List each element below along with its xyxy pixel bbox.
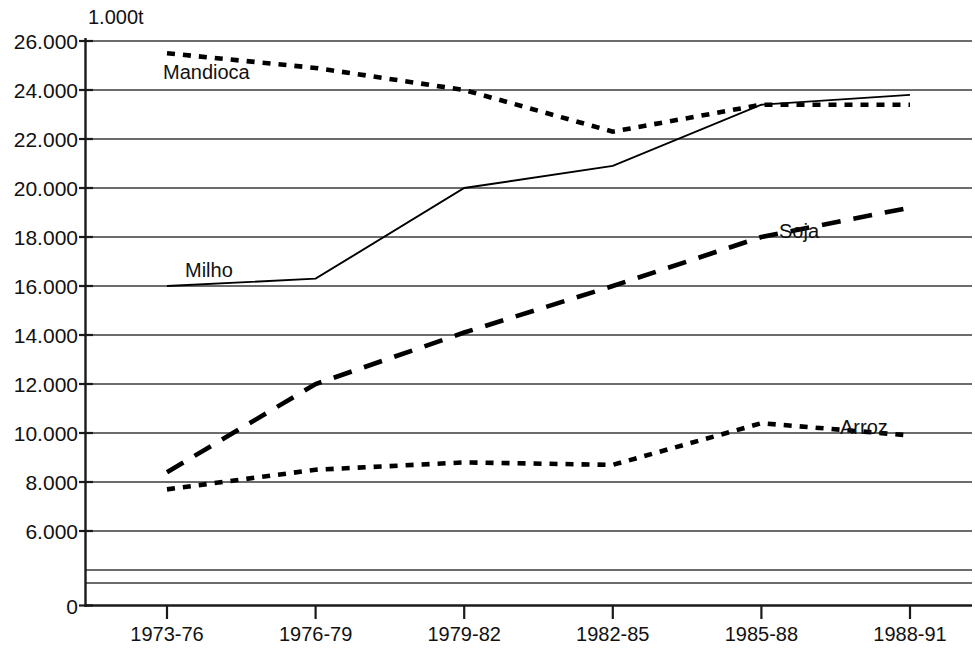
chart-container: 06.0008.00010.00012.00014.00016.00018.00…	[0, 0, 975, 648]
series-line-milho	[167, 95, 910, 286]
y-tick-label: 14.000	[14, 324, 78, 347]
y-tick-label: 18.000	[14, 226, 78, 249]
y-tick-label: 12.000	[14, 373, 78, 396]
x-axis-tick-labels: 1973-761976-791979-821982-851985-881988-…	[130, 623, 946, 645]
x-tick-label: 1979-82	[427, 623, 500, 645]
series-label-milho: Milho	[185, 259, 233, 281]
y-axis	[79, 38, 93, 607]
x-tick-label: 1988-91	[873, 623, 946, 645]
x-tick-label: 1976-79	[279, 623, 352, 645]
y-tick-label: 0	[66, 595, 78, 618]
y-tick-label: 26.000	[14, 30, 78, 53]
y-tick-label: 24.000	[14, 79, 78, 102]
unit-label: 1.000t	[88, 6, 144, 28]
y-tick-label: 6.000	[25, 520, 78, 543]
y-tick-label: 8.000	[25, 471, 78, 494]
series-label-mandioca: Mandioca	[163, 61, 251, 83]
y-tick-label: 20.000	[14, 177, 78, 200]
series-labels: MandiocaMilhoSojaArroz	[163, 61, 888, 438]
x-tick-label: 1982-85	[576, 623, 649, 645]
y-tick-label: 16.000	[14, 275, 78, 298]
x-tick-label: 1973-76	[130, 623, 203, 645]
y-tick-label: 22.000	[14, 128, 78, 151]
data-series	[167, 53, 910, 489]
line-chart: 06.0008.00010.00012.00014.00016.00018.00…	[0, 0, 975, 648]
series-line-mandioca	[167, 53, 910, 131]
series-label-arroz: Arroz	[840, 416, 888, 438]
y-tick-label: 10.000	[14, 422, 78, 445]
series-label-soja: Soja	[779, 220, 820, 242]
y-axis-tick-labels: 06.0008.00010.00012.00014.00016.00018.00…	[14, 30, 78, 618]
x-tick-label: 1985-88	[725, 623, 798, 645]
x-axis-tick-marks	[167, 605, 910, 619]
